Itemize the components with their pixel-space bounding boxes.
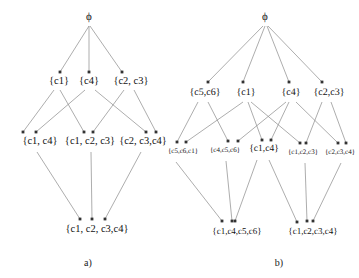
lattice-edge xyxy=(95,90,146,132)
diagram-caption-b: b) xyxy=(275,257,283,268)
edge-arrowhead xyxy=(91,218,94,221)
lattice-node-b-c1c2c3: {c1,c2,c3} xyxy=(288,149,318,156)
lattice-edge xyxy=(306,102,322,143)
edge-arrowhead xyxy=(261,139,264,142)
lattice-edge xyxy=(60,26,89,72)
edge-arrowhead xyxy=(83,131,86,134)
edge-arrowhead xyxy=(306,220,309,223)
lattice-node-a-c2c3c4: {c2, c3,c4} xyxy=(119,136,167,147)
lattice-edge xyxy=(105,152,141,219)
edge-arrowhead xyxy=(231,220,234,223)
edge-arrowhead xyxy=(104,218,107,221)
edge-arrowhead xyxy=(121,71,124,74)
edges-group xyxy=(23,26,346,222)
lattice-node-a-c1c2c3: {c1, c2, c3} xyxy=(65,136,115,147)
edge-arrowhead xyxy=(22,131,25,134)
edge-arrowhead xyxy=(79,218,82,221)
lattice-edge xyxy=(176,162,222,221)
edge-arrowhead xyxy=(155,131,158,134)
lattice-figure: ϕ{c1}{c4}{c2, c3}{c1, c4}{c1, c2, c3}{c2… xyxy=(0,0,359,278)
lattice-edge xyxy=(296,102,338,143)
lattice-node-a-c1c4: {c1, c4} xyxy=(22,136,57,147)
lattice-node-b-c4c5c6: {c4,c5,c6} xyxy=(210,147,240,154)
lattice-edge xyxy=(93,90,124,132)
edge-arrowhead xyxy=(345,142,348,145)
lattice-node-a-all: {c1, c2, c3,c4} xyxy=(66,224,129,235)
edge-arrowhead xyxy=(312,220,315,223)
lattice-node-b-c1c4c5c6: {c1,c4,c5,c6} xyxy=(212,227,261,236)
lattice-edge xyxy=(248,102,262,140)
lattice-edge xyxy=(235,160,257,221)
edge-arrowhead xyxy=(242,81,245,84)
edge-arrowhead xyxy=(234,220,237,223)
lattice-edge xyxy=(36,90,85,132)
lattice-edge xyxy=(331,102,346,143)
lattice-node-b-c1c2c3c4: {c1,c2,c3,c4} xyxy=(288,227,337,236)
lattice-node-a-c2c3: {c2, c3} xyxy=(113,76,148,87)
edge-arrowhead xyxy=(185,141,188,144)
edge-arrowhead xyxy=(299,142,302,145)
lattice-node-a-c1: {c1} xyxy=(49,76,69,87)
lattice-node-b-c2c3c4: {c2,c3,c4} xyxy=(325,149,355,156)
lattice-node-b-c4: {c4} xyxy=(281,88,300,99)
lattice-edge xyxy=(208,26,263,82)
edge-arrowhead xyxy=(35,131,38,134)
edge-arrowhead xyxy=(337,142,340,145)
lattice-edge xyxy=(208,102,228,141)
lattice-edge xyxy=(37,152,80,219)
lattice-edge xyxy=(313,163,341,221)
lattice-node-b-c1: {c1} xyxy=(236,88,255,99)
edge-arrowhead xyxy=(176,141,179,144)
lattice-node-b-c1c4: {c1,c4} xyxy=(249,145,278,155)
lattice-edge xyxy=(267,26,289,82)
lattice-edge xyxy=(238,102,286,141)
lattice-edge xyxy=(243,26,265,82)
lattice-node-b-top: ϕ xyxy=(262,12,268,24)
edge-arrowhead xyxy=(207,81,210,84)
lattice-node-a-top: ϕ xyxy=(86,12,92,24)
lattice-edge xyxy=(269,160,297,222)
edge-arrowhead xyxy=(237,140,240,143)
lattice-node-b-c5c6c1: {c5,c6,c1} xyxy=(168,148,198,155)
edge-arrowhead xyxy=(288,81,291,84)
lattice-edge xyxy=(305,163,307,221)
lattice-edge xyxy=(90,26,122,72)
diagram-caption-a: a) xyxy=(84,257,92,268)
lattice-node-b-c2c3: {c2,c3} xyxy=(314,88,345,99)
lattice-edge xyxy=(60,90,84,132)
edge-arrowhead xyxy=(296,221,299,224)
lattice-node-a-c4: {c4} xyxy=(79,76,99,87)
lattice-edge xyxy=(23,90,54,132)
edge-arrowhead xyxy=(145,131,148,134)
lattice-edge xyxy=(134,90,156,132)
edge-arrowhead xyxy=(227,140,230,143)
lattice-edge xyxy=(268,26,322,82)
edge-arrowhead xyxy=(305,142,308,145)
edge-arrowhead xyxy=(92,131,95,134)
edge-arrowhead xyxy=(59,71,62,74)
edge-arrowhead xyxy=(88,71,91,74)
edge-arrowhead xyxy=(221,220,224,223)
lattice-edge xyxy=(251,102,300,143)
lattice-edge xyxy=(226,161,232,221)
lattice-edge xyxy=(91,152,92,219)
edge-arrowhead xyxy=(270,139,273,142)
edge-arrowhead xyxy=(321,81,324,84)
lattice-node-b-c5c6: {c5,c6} xyxy=(190,88,221,99)
